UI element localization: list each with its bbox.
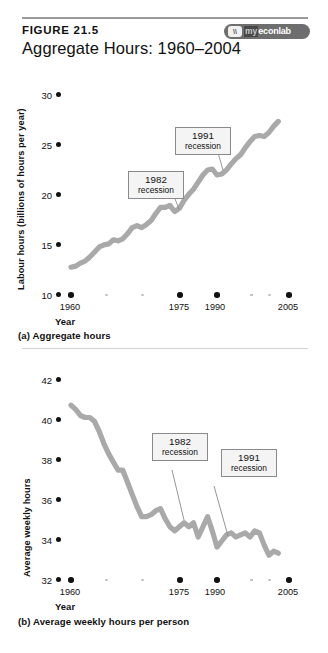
panel-b-xtick-label-1990: 1990 xyxy=(195,587,235,597)
panel-b-xtick-dot-minor-2000 xyxy=(268,579,271,582)
panel-b-ytick-dot-42 xyxy=(56,377,61,382)
figure-title: Aggregate Hours: 1960–2004 xyxy=(22,38,312,59)
panel-a-leader-lines xyxy=(62,62,310,302)
panel-a-callout-1982-word: recession xyxy=(133,185,179,196)
panel-b-callout-1982: 1982 recession xyxy=(152,433,208,461)
panel-b-callout-1991-word: recession xyxy=(226,463,272,474)
panel-a-xtick-label-1975: 1975 xyxy=(159,302,199,312)
figure-header: FIGURE 21.5 Aggregate Hours: 1960–2004 \… xyxy=(22,23,312,67)
panel-a-callout-1982: 1982 recession xyxy=(128,171,184,199)
panel-a-ytick-dot-10 xyxy=(56,292,61,297)
panel-b-ytick-label-40: 40 xyxy=(8,416,52,425)
panel-b-callout-1991-year: 1991 xyxy=(226,452,272,463)
figure-container: FIGURE 21.5 Aggregate Hours: 1960–2004 \… xyxy=(0,0,328,653)
panel-a-ytick-label-15: 15 xyxy=(8,241,52,250)
panel-b-ytick-label-42: 42 xyxy=(8,376,52,385)
panel-a-xtick-label-1990: 1990 xyxy=(195,302,235,312)
panel-a-callout-1991-word: recession xyxy=(180,141,226,152)
panel-b-ytick-label-36: 36 xyxy=(8,496,52,505)
panel-average-weekly-hours: Average weekly hours 32 34 36 38 40 42 1… xyxy=(0,352,328,617)
panel-b-ytick-dot-38 xyxy=(56,457,61,462)
panel-a-ytick-label-25: 25 xyxy=(8,141,52,150)
panel-b-xtick-label-2005: 2005 xyxy=(268,587,308,597)
panel-a-ytick-dot-15 xyxy=(56,242,61,247)
panel-b-ytick-dot-32 xyxy=(56,577,61,582)
myeconlab-mark-icon: \\ xyxy=(228,26,242,37)
panel-b-xtick-dot-minor-1995 xyxy=(250,579,253,582)
panel-a-callout-1991-year: 1991 xyxy=(180,130,226,141)
panel-b-xtick-label-1975: 1975 xyxy=(159,587,199,597)
panel-a-ytick-dot-25 xyxy=(56,142,61,147)
panel-aggregate-hours: Labour hours (billions of hours per year… xyxy=(0,62,328,327)
panel-b-ytick-label-34: 34 xyxy=(8,536,52,545)
panel-a-xtick-dot-1975 xyxy=(177,292,183,298)
myeconlab-name-label: econlab xyxy=(258,26,291,37)
panel-a-xtick-dot-minor-2000 xyxy=(268,294,271,297)
myeconlab-logo[interactable]: \\ my econlab xyxy=(224,24,310,39)
panel-a-ytick-label-20: 20 xyxy=(8,191,52,200)
panel-a-xtick-dot-minor-1970 xyxy=(141,294,144,297)
panel-a-callout-1982-year: 1982 xyxy=(133,174,179,185)
panel-b-y-axis-title: Average weekly hours xyxy=(22,478,32,577)
panel-a-xtick-dot-minor-1965 xyxy=(105,294,108,297)
panel-a-xtick-label-2005: 2005 xyxy=(268,302,308,312)
myeconlab-my-label: my xyxy=(244,26,258,37)
panel-b-xtick-label-1960: 1960 xyxy=(50,587,90,597)
panel-a-xtick-label-1960: 1960 xyxy=(50,302,90,312)
panel-b-ytick-dot-36 xyxy=(56,497,61,502)
panel-a-ytick-dot-30 xyxy=(56,92,61,97)
panel-a-caption: (a) Aggregate hours xyxy=(18,330,111,341)
panel-a-ytick-label-10: 10 xyxy=(8,291,52,300)
panel-b-caption: (b) Average weekly hours per person xyxy=(18,616,189,627)
panel-a-xtick-dot-minor-1995 xyxy=(250,294,253,297)
panel-b-callout-1982-year: 1982 xyxy=(157,436,203,447)
panel-b-xtick-dot-1960 xyxy=(68,577,74,583)
panel-a-xtick-dot-1960 xyxy=(68,292,74,298)
panel-b-callout-1982-word: recession xyxy=(157,447,203,458)
panel-b-xtick-dot-1975 xyxy=(177,577,183,583)
header-divider xyxy=(22,17,308,19)
panel-b-xtick-dot-2005 xyxy=(286,577,292,583)
panel-b-xtick-dot-1990 xyxy=(214,577,220,583)
panel-a-xtick-dot-2005 xyxy=(286,292,292,298)
panel-b-callout-1991: 1991 recession xyxy=(221,449,277,477)
panel-b-xtick-dot-minor-1965 xyxy=(105,579,108,582)
panel-a-callout-1991: 1991 recession xyxy=(175,127,231,155)
panel-a-xtick-dot-1990 xyxy=(214,292,220,298)
panel-divider xyxy=(22,348,308,349)
panel-b-xtick-dot-minor-1970 xyxy=(141,579,144,582)
panel-b-ytick-dot-40 xyxy=(56,417,61,422)
panel-b-x-axis-title: Year xyxy=(55,601,75,612)
panel-a-ytick-label-30: 30 xyxy=(8,91,52,100)
panel-b-ytick-label-32: 32 xyxy=(8,576,52,585)
panel-a-x-axis-title: Year xyxy=(55,316,75,327)
panel-a-ytick-dot-20 xyxy=(56,192,61,197)
panel-b-ytick-dot-34 xyxy=(56,537,61,542)
panel-b-ytick-label-38: 38 xyxy=(8,456,52,465)
